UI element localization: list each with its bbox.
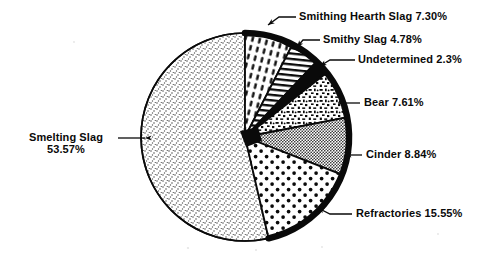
label-smelting-slag-value: 53.57% — [14, 143, 118, 155]
label-refractories: Refractories 15.55% — [356, 207, 462, 219]
pie-slices — [141, 33, 349, 241]
label-bear: Bear 7.61% — [364, 96, 424, 108]
label-smithing-hearth-slag: Smithing Hearth Slag 7.30% — [299, 10, 447, 22]
label-undetermined: Undetermined 2.3% — [358, 53, 462, 65]
pie-chart-figure: Smithing Hearth Slag 7.30% Smithy Slag 4… — [0, 0, 500, 255]
label-smithy-slag: Smithy Slag 4.78% — [323, 33, 422, 45]
leader-line-undetermined — [320, 60, 355, 66]
label-cinder: Cinder 8.84% — [366, 148, 436, 160]
leader-line-smithing-hearth-slag — [268, 17, 296, 25]
label-smelting-slag: Smelting Slag 53.57% — [14, 131, 118, 155]
label-smelting-slag-name: Smelting Slag — [14, 131, 118, 143]
